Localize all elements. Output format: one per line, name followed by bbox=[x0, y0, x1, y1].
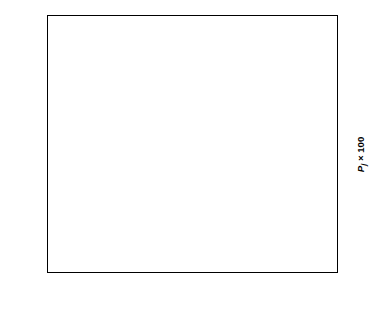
y-axis-label-right: Pj × 100 bbox=[355, 137, 368, 172]
fit-line bbox=[48, 16, 339, 274]
plot-area bbox=[47, 15, 338, 273]
chart-figure: Normal probability, (1 − Pj) × 100 Pj × … bbox=[0, 0, 381, 318]
